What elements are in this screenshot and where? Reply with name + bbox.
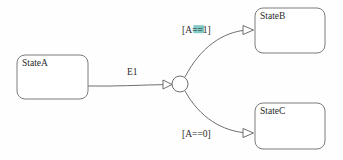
state-label-stateB: StateB (260, 11, 285, 21)
transition-label-a-eq-1: [A==1] (182, 25, 211, 35)
transition-junction-to-stateC[interactable]: [A==0] (182, 91, 254, 139)
transition-stateA-to-junction[interactable]: E1 (88, 67, 172, 89)
transition-label-a-eq-0: [A==0] (182, 129, 211, 139)
transition-path-e1[interactable] (88, 85, 168, 87)
statechart-diagram-canvas: E1 [A==1] [A==0] StateA StateB (0, 0, 343, 160)
transition-path-a-eq-1[interactable] (185, 30, 247, 77)
arrowhead-a-eq-1-icon (243, 26, 254, 35)
statechart-svg: E1 [A==1] [A==0] StateA StateB (0, 0, 343, 160)
state-node-stateA[interactable]: StateA (17, 55, 88, 99)
arrowhead-e1-icon (163, 80, 172, 89)
state-label-stateA: StateA (22, 58, 48, 68)
transition-path-a-eq-0[interactable] (185, 91, 247, 133)
transition-label-e1: E1 (127, 67, 138, 77)
junction-node[interactable] (172, 76, 188, 92)
state-node-stateC[interactable]: StateC (255, 103, 325, 149)
state-node-stateB[interactable]: StateB (255, 8, 325, 53)
transition-junction-to-stateB[interactable]: [A==1] (182, 25, 254, 77)
arrowhead-a-eq-0-icon (243, 129, 254, 138)
state-label-stateC: StateC (260, 106, 285, 116)
